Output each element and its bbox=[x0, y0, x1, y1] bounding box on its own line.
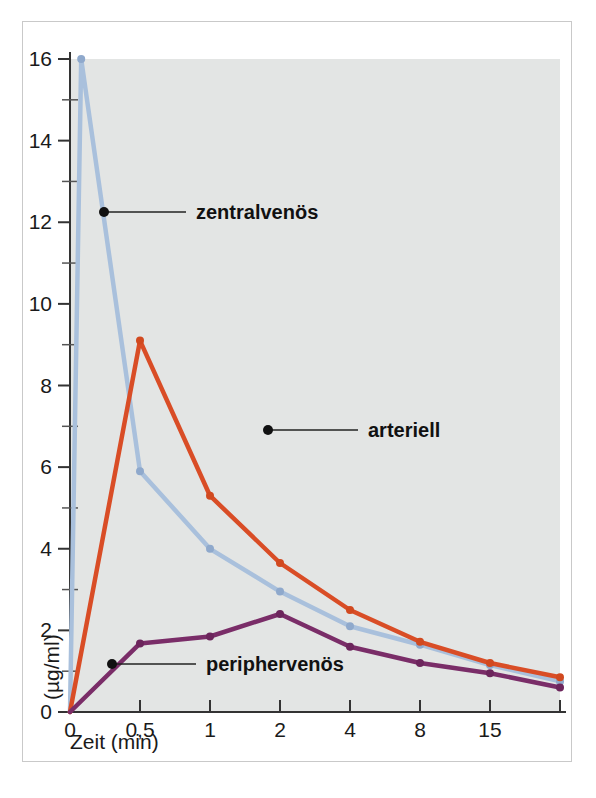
plot-area-background bbox=[70, 59, 560, 712]
callout-dot bbox=[263, 425, 273, 435]
x-axis-title: Zeit (min) bbox=[70, 730, 159, 754]
x-axis-tick-label: 8 bbox=[414, 718, 426, 742]
series-marker-2 bbox=[346, 643, 354, 651]
series-marker-2 bbox=[416, 659, 424, 667]
series-label-1: arteriell bbox=[368, 419, 440, 442]
series-marker-0 bbox=[276, 588, 284, 596]
series-marker-1 bbox=[486, 659, 494, 667]
series-marker-2 bbox=[206, 633, 214, 641]
series-marker-1 bbox=[416, 638, 424, 646]
x-axis-tick-label: 4 bbox=[344, 718, 356, 742]
y-axis-tick-label: 12 bbox=[20, 210, 52, 234]
series-marker-0 bbox=[136, 467, 144, 475]
y-axis-major-ticks bbox=[58, 59, 70, 712]
series-marker-1 bbox=[206, 492, 214, 500]
y-axis-tick-label: 0 bbox=[20, 700, 52, 724]
y-axis-tick-label: 10 bbox=[20, 292, 52, 316]
series-marker-0 bbox=[77, 55, 85, 63]
series-marker-2 bbox=[556, 684, 564, 692]
series-marker-0 bbox=[206, 545, 214, 553]
callout-dot bbox=[107, 659, 117, 669]
series-marker-1 bbox=[276, 559, 284, 567]
series-marker-2 bbox=[276, 610, 284, 618]
series-marker-1 bbox=[556, 673, 564, 681]
series-label-2: periphervenös bbox=[206, 653, 344, 676]
x-axis-tick-label: 15 bbox=[478, 718, 501, 742]
series-marker-2 bbox=[486, 669, 494, 677]
y-axis-tick-label: 8 bbox=[20, 374, 52, 398]
figure-container: 0246810121416 00,5124815 zentralvenösart… bbox=[0, 0, 596, 798]
y-axis-tick-label: 16 bbox=[20, 47, 52, 71]
series-label-0: zentralvenös bbox=[196, 201, 318, 224]
y-axis-tick-label: 4 bbox=[20, 537, 52, 561]
y-axis-title: (µg/ml) bbox=[40, 634, 64, 700]
callout-dot bbox=[99, 207, 109, 217]
y-axis-tick-label: 14 bbox=[20, 129, 52, 153]
y-axis-tick-label: 6 bbox=[20, 455, 52, 479]
series-marker-0 bbox=[346, 622, 354, 630]
series-marker-1 bbox=[346, 606, 354, 614]
x-axis-tick-label: 1 bbox=[204, 718, 216, 742]
line-chart-plot bbox=[0, 0, 596, 798]
x-axis-tick-label: 2 bbox=[274, 718, 286, 742]
series-marker-2 bbox=[136, 639, 144, 647]
series-marker-1 bbox=[136, 337, 144, 345]
